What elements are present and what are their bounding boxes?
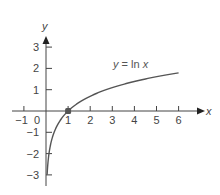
y-tick-label: −3 — [26, 169, 39, 181]
y-tick-label: 3 — [33, 41, 39, 53]
y-tick-label: −2 — [26, 148, 39, 160]
y-axis-arrow-icon — [43, 36, 50, 44]
y-tick-label: −1 — [26, 126, 39, 138]
x-tick-label: 5 — [153, 114, 159, 126]
curve-label: y = ln x — [112, 58, 149, 70]
x-tick-label: 4 — [131, 114, 137, 126]
y-axis-label: y — [41, 20, 49, 32]
y-tick-label: 1 — [33, 84, 39, 96]
x-tick-label: 3 — [109, 114, 115, 126]
x-tick-label: 1 — [65, 114, 71, 126]
y-tick-label: 2 — [33, 62, 39, 74]
x-tick-label: 0 — [34, 114, 40, 126]
axes — [12, 36, 205, 186]
point-marker-icon — [65, 108, 71, 114]
x-tick-label: 6 — [176, 114, 182, 126]
x-axis-label: x — [205, 105, 212, 117]
x-tick-label: −1 — [15, 114, 28, 126]
x-axis-arrow-icon — [197, 108, 205, 115]
ln-x-chart: −10123456−3−2−1123 x y y = ln x — [0, 0, 220, 195]
x-tick-label: 2 — [87, 114, 93, 126]
